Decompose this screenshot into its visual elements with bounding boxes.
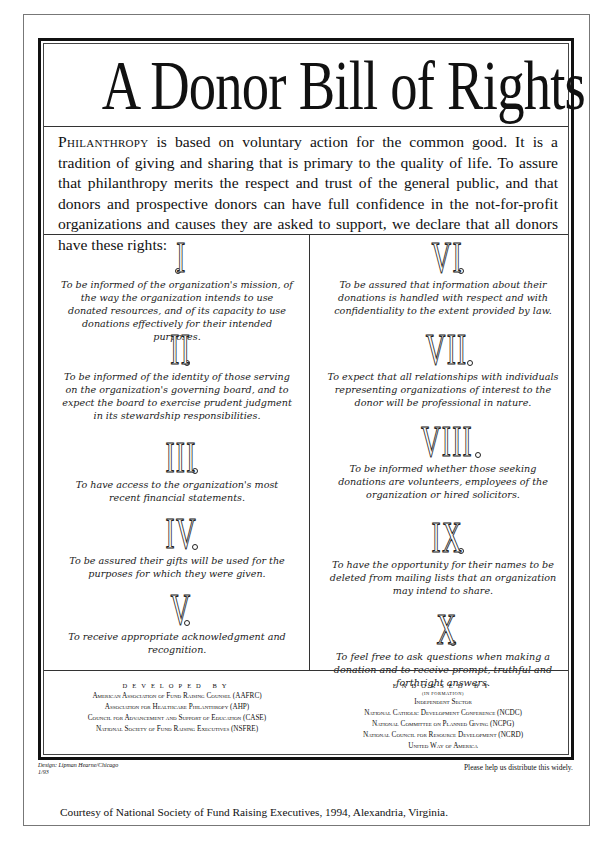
right-item: III To have access to the organization's…	[46, 438, 308, 514]
right-text: To be assured that information about the…	[312, 278, 574, 317]
divider	[44, 670, 568, 671]
roman-numeral: IX	[431, 518, 462, 558]
design-date: 1/93	[38, 769, 118, 776]
right-item: VII To expect that all relationships wit…	[312, 330, 574, 422]
roman-numeral: III	[166, 438, 197, 478]
dot-icon	[475, 452, 481, 458]
org-name: Independent Sector	[312, 697, 574, 708]
poster-inner-border: A Donor Bill of Rights Philanthropy is b…	[43, 43, 569, 755]
roman-numeral: VII	[426, 330, 468, 370]
right-item: VI To be assured that information about …	[312, 238, 574, 330]
column-divider	[309, 234, 310, 670]
roman-numeral: II	[171, 330, 192, 370]
org-name: National Council for Resource Developmen…	[312, 730, 574, 741]
org-name: National Catholic Development Conference…	[312, 708, 574, 719]
right-text: To expect that all relationships with in…	[312, 370, 574, 409]
roman-numeral: X	[437, 610, 458, 650]
developed-by-heading: DEVELOPED BY	[46, 680, 308, 691]
intro-paragraph: Philanthropy is based on voluntary actio…	[58, 132, 558, 255]
right-text: To be informed of the identity of those …	[46, 370, 308, 422]
divider	[44, 126, 568, 127]
courtesy-caption: Courtesy of National Society of Fund Rai…	[60, 806, 448, 818]
roman-numeral: I	[176, 238, 186, 278]
design-credit: Design: Lipman Hearne/Chicago 1/93	[38, 762, 118, 776]
right-item: V To receive appropriate acknowledgment …	[46, 590, 308, 656]
dot-icon	[467, 360, 473, 366]
right-item: II To be informed of the identity of tho…	[46, 330, 308, 438]
intro-lead: Philanthropy	[58, 133, 149, 150]
roman-numeral: IV	[165, 514, 196, 554]
rights-column-left: I To be informed of the organization's m…	[46, 238, 308, 656]
rights-column-right: VI To be assured that information about …	[312, 238, 574, 689]
right-item: VIII To be informed whether those seekin…	[312, 422, 574, 518]
roman-numeral: VIII	[421, 422, 473, 462]
right-text: To be informed whether those seeking don…	[312, 462, 574, 501]
org-name: National Committee on Planned Giving (NC…	[312, 719, 574, 730]
endorsed-by-section: ENDORSED BY (IN FORMATION) Independent S…	[312, 676, 574, 752]
org-name: Association for Healthcare Philanthropy …	[46, 702, 308, 713]
distribute-note: Please help us distribute this widely.	[464, 763, 573, 772]
poster-title: A Donor Bill of Rights	[102, 48, 511, 124]
divider	[44, 234, 568, 235]
roman-numeral: VI	[431, 238, 462, 278]
org-name: Council for Advancement and Support of E…	[46, 713, 308, 724]
right-item: IV To be assured their gifts will be use…	[46, 514, 308, 590]
org-name: National Society of Fund Raising Executi…	[46, 724, 308, 735]
right-item: IX To have the opportunity for their nam…	[312, 518, 574, 610]
org-name: United Way of America	[312, 741, 574, 752]
right-item: I To be informed of the organization's m…	[46, 238, 308, 330]
org-name: American Association of Fund Raising Cou…	[46, 691, 308, 702]
roman-numeral: V	[171, 590, 192, 630]
developed-by-section: DEVELOPED BY American Association of Fun…	[46, 676, 308, 735]
endorsed-by-heading: ENDORSED BY	[312, 680, 574, 691]
poster: A Donor Bill of Rights Philanthropy is b…	[38, 38, 574, 760]
design-credit-line: Design: Lipman Hearne/Chicago	[38, 762, 118, 769]
right-text: To have the opportunity for their names …	[312, 558, 574, 597]
